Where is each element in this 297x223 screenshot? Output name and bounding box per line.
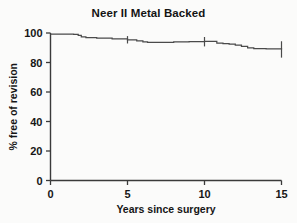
survival-chart-figure: Neer II Metal Backed 020406080100 051015… (0, 0, 297, 223)
y-axis-tick-labels: 020406080100 (24, 27, 42, 187)
y-tick-label: 0 (36, 175, 42, 187)
y-axis-title: % free of revision (7, 63, 19, 151)
y-tick-label: 40 (30, 116, 42, 128)
y-tick-label: 100 (24, 27, 42, 39)
x-tick-label: 10 (198, 188, 210, 200)
x-tick-label: 0 (47, 188, 53, 200)
plot-area: 020406080100 051015 Years since surgery … (0, 0, 297, 223)
confidence-interval-bars (128, 36, 282, 58)
survival-curve (51, 34, 282, 49)
x-axis-tick-labels: 051015 (47, 188, 287, 200)
x-tick-label: 15 (275, 188, 287, 200)
x-axis-title: Years since surgery (116, 203, 215, 215)
x-tick-label: 5 (124, 188, 130, 200)
y-tick-label: 60 (30, 86, 42, 98)
y-tick-label: 80 (30, 57, 42, 69)
y-tick-label: 20 (30, 145, 42, 157)
